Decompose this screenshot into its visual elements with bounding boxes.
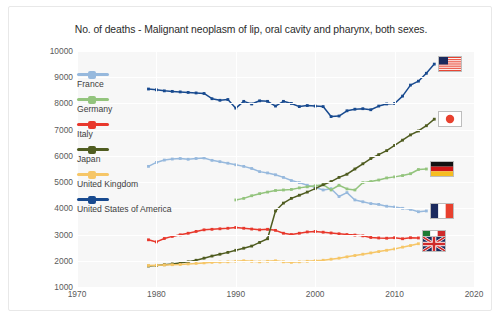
- data-point: [298, 194, 301, 197]
- data-point: [354, 199, 357, 202]
- data-point: [425, 72, 428, 75]
- flag-germany-icon: [430, 161, 454, 177]
- y-axis-tick-label: 4000: [11, 203, 73, 213]
- data-point: [338, 257, 341, 260]
- data-point: [369, 108, 372, 111]
- x-axis-tick-label: 1970: [68, 289, 87, 299]
- data-point: [433, 118, 436, 121]
- data-point: [346, 255, 349, 258]
- data-point: [385, 149, 388, 152]
- data-point: [274, 229, 277, 232]
- data-point: [306, 191, 309, 194]
- legend-swatch: [77, 173, 109, 176]
- gridline-vertical: [395, 51, 396, 287]
- legend-item-japan[interactable]: Japan: [77, 144, 192, 169]
- data-point: [417, 210, 420, 213]
- y-axis: 1000200030004000500060007000800090001000…: [9, 51, 73, 287]
- data-point: [354, 168, 357, 171]
- legend-item-united-states-of-america[interactable]: United States of America: [77, 194, 192, 219]
- data-point: [242, 247, 245, 250]
- chart-card: No. of deaths - Malignant neoplasm of li…: [8, 6, 492, 311]
- legend-swatch: [77, 73, 109, 76]
- data-point: [226, 251, 229, 254]
- flag-france-icon: [430, 203, 454, 219]
- data-point: [361, 253, 364, 256]
- x-axis-tick-label: 2020: [465, 289, 484, 299]
- data-point: [282, 176, 285, 179]
- data-point: [226, 98, 229, 101]
- legend-label: Italy: [77, 129, 93, 139]
- x-axis-tick-label: 1990: [226, 289, 245, 299]
- data-point: [219, 99, 222, 102]
- legend-item-italy[interactable]: Italy: [77, 119, 192, 144]
- data-point: [203, 92, 206, 95]
- x-axis-tick-label: 2000: [306, 289, 325, 299]
- y-axis-tick-label: 10000: [11, 46, 73, 56]
- data-point: [369, 157, 372, 160]
- x-axis-tick-label: 1980: [147, 289, 166, 299]
- data-point: [171, 263, 174, 266]
- data-point: [226, 227, 229, 230]
- data-point: [306, 231, 309, 234]
- data-point: [409, 84, 412, 87]
- data-point: [361, 162, 364, 165]
- gridline-vertical: [315, 51, 316, 287]
- legend-label: Germany: [77, 104, 112, 114]
- gridline-horizontal: [77, 235, 474, 236]
- data-point: [385, 177, 388, 180]
- data-point: [425, 124, 428, 127]
- data-point: [195, 157, 198, 160]
- data-point: [417, 242, 420, 245]
- data-point: [274, 105, 277, 108]
- data-point: [354, 108, 357, 111]
- data-point: [211, 228, 214, 231]
- data-point: [346, 188, 349, 191]
- data-point: [274, 189, 277, 192]
- data-point: [290, 197, 293, 200]
- data-point: [369, 202, 372, 205]
- data-point: [409, 244, 412, 247]
- data-point: [195, 230, 198, 233]
- data-point: [401, 95, 404, 98]
- gridline-horizontal: [77, 261, 474, 262]
- data-point: [219, 227, 222, 230]
- data-point: [147, 264, 150, 267]
- flag-united-states-icon: [438, 56, 462, 72]
- data-point: [338, 195, 341, 198]
- chart-screenshot: No. of deaths - Malignant neoplasm of li…: [0, 0, 500, 319]
- data-point: [298, 186, 301, 189]
- data-point: [377, 237, 380, 240]
- data-point: [417, 237, 420, 240]
- gridline-vertical: [474, 51, 475, 287]
- data-point: [417, 168, 420, 171]
- data-point: [330, 115, 333, 118]
- legend-item-germany[interactable]: Germany: [77, 94, 192, 119]
- legend-item-france[interactable]: France: [77, 69, 192, 94]
- data-point: [354, 254, 357, 257]
- data-point: [369, 252, 372, 255]
- data-point: [258, 192, 261, 195]
- data-point: [401, 174, 404, 177]
- data-point: [290, 188, 293, 191]
- data-point: [346, 173, 349, 176]
- data-point: [258, 241, 261, 244]
- data-point: [417, 80, 420, 83]
- data-point: [282, 202, 285, 205]
- y-axis-tick-label: 3000: [11, 230, 73, 240]
- data-point: [211, 255, 214, 258]
- data-point: [282, 189, 285, 192]
- data-point: [250, 228, 253, 231]
- data-point: [179, 263, 182, 266]
- flag-japan-icon: [438, 111, 462, 127]
- legend-label: France: [77, 79, 104, 89]
- data-point: [361, 107, 364, 110]
- gridline-vertical: [236, 51, 237, 287]
- data-point: [203, 261, 206, 264]
- data-point: [322, 189, 325, 192]
- data-point: [338, 115, 341, 118]
- y-axis-tick-label: 8000: [11, 98, 73, 108]
- data-point: [242, 227, 245, 230]
- x-axis: 197019801990200020102020: [77, 289, 474, 305]
- legend-item-united-kingdom[interactable]: United Kingdom: [77, 169, 192, 194]
- data-point: [163, 264, 166, 267]
